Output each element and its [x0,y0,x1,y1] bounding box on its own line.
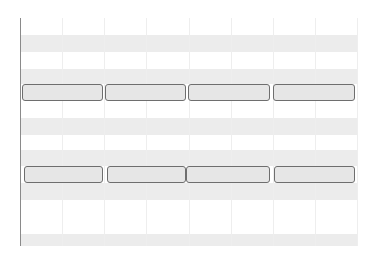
grid-column-line [146,18,147,246]
grid-column-line [231,18,232,246]
timeline-segment[interactable] [188,84,270,101]
timeline-segment[interactable] [24,166,103,183]
grid-column-line [189,18,190,246]
timeline-segment[interactable] [274,166,355,183]
grid-column-line [357,18,358,246]
grid-column-line [273,18,274,246]
timeline-segment[interactable] [186,166,270,183]
timeline-segment[interactable] [107,166,186,183]
timeline-segment[interactable] [105,84,186,101]
timeline-grid [20,18,357,246]
timeline-segment[interactable] [22,84,103,101]
grid-column-line [104,18,105,246]
grid-column-line [62,18,63,246]
timeline-segment[interactable] [273,84,355,101]
timeline-bar-row [20,166,357,183]
timeline-left-axis [20,18,21,246]
grid-column-line [315,18,316,246]
timeline-bar-row [20,84,357,101]
